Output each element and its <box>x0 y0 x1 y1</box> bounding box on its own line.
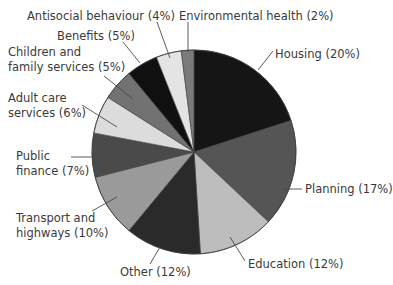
slice-label: Other (12%) <box>120 265 191 280</box>
slice-label: Environmental health (2%) <box>179 9 334 24</box>
slice-label: Adult careservices (6%) <box>8 91 86 121</box>
pie-slices <box>92 50 296 254</box>
leader-line <box>258 51 273 70</box>
slice-label: Transport andhighways (10%) <box>16 211 109 241</box>
slice-label: Planning (17%) <box>305 182 393 197</box>
slice-label: Children andfamily services (5%) <box>8 45 125 75</box>
leader-line <box>150 247 160 264</box>
slice-label: Education (12%) <box>248 257 343 272</box>
slice-label: Antisocial behaviour (4%) <box>27 9 175 24</box>
slice-label: Benefits (5%) <box>57 29 135 44</box>
leader-line <box>157 22 170 58</box>
leader-line <box>123 42 140 63</box>
slice-label: Housing (20%) <box>275 47 360 62</box>
slice-label: Publicfinance (7%) <box>16 149 89 179</box>
